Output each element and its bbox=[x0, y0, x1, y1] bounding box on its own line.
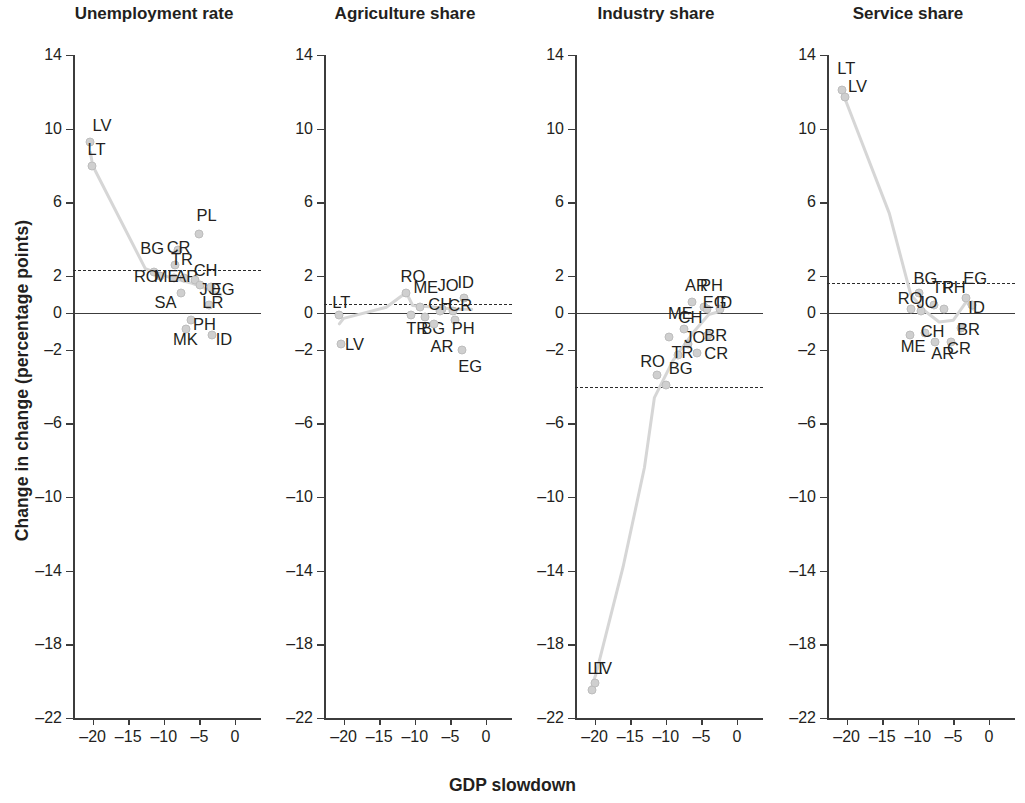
y-tick bbox=[568, 644, 575, 645]
x-tick bbox=[989, 718, 990, 725]
y-tick bbox=[820, 55, 827, 56]
y-tick bbox=[317, 423, 324, 424]
x-tick bbox=[486, 718, 487, 725]
data-point bbox=[652, 371, 661, 380]
x-tick-label: –20 bbox=[833, 728, 860, 746]
x-tick-label: –15 bbox=[115, 728, 142, 746]
y-tick bbox=[317, 497, 324, 498]
y-tick-label: –22 bbox=[35, 709, 62, 727]
data-point-label: JO bbox=[438, 277, 459, 294]
data-point-label: PH bbox=[943, 279, 966, 296]
x-tick bbox=[918, 718, 919, 725]
y-tick bbox=[317, 718, 324, 719]
data-point-label: LT bbox=[837, 60, 855, 77]
x-tick-label: 0 bbox=[985, 728, 994, 746]
x-tick-label: –10 bbox=[401, 728, 428, 746]
y-tick-label: –10 bbox=[537, 488, 564, 506]
panel-industry-share: Industry share1410620–2–6–10–14–18–22–20… bbox=[515, 0, 767, 803]
data-point-label: ID bbox=[968, 299, 985, 316]
y-tick bbox=[820, 423, 827, 424]
y-tick-label: 14 bbox=[798, 46, 816, 64]
y-tick bbox=[568, 497, 575, 498]
plot-area: 1410620–2–6–10–14–18–22–20–15–10–50LTLVB… bbox=[827, 55, 1015, 718]
y-tick-label: 6 bbox=[304, 193, 313, 211]
x-tick bbox=[630, 718, 631, 725]
y-tick-label: 2 bbox=[807, 267, 816, 285]
y-tick-label: –10 bbox=[789, 488, 816, 506]
y-tick bbox=[66, 202, 73, 203]
y-axis-line bbox=[73, 55, 75, 718]
x-tick-label: –10 bbox=[150, 728, 177, 746]
data-point bbox=[87, 161, 96, 170]
y-tick-label: –2 bbox=[44, 341, 62, 359]
data-point bbox=[406, 310, 415, 319]
data-point bbox=[940, 305, 949, 314]
data-point bbox=[664, 332, 673, 341]
y-tick-label: –18 bbox=[537, 635, 564, 653]
data-point-label: CR bbox=[947, 340, 971, 357]
data-point-label: TR bbox=[171, 251, 193, 268]
data-point bbox=[335, 310, 344, 319]
data-point-label: ME bbox=[901, 338, 926, 355]
y-tick-label: 0 bbox=[807, 304, 816, 322]
data-point-label: CH bbox=[679, 309, 703, 326]
y-tick bbox=[317, 571, 324, 572]
y-tick-label: 10 bbox=[295, 120, 313, 138]
y-tick bbox=[568, 571, 575, 572]
panel-title: Unemployment rate bbox=[73, 4, 235, 24]
data-point-label: BG bbox=[140, 240, 164, 257]
x-tick-label: –5 bbox=[441, 728, 459, 746]
y-tick bbox=[66, 644, 73, 645]
x-tick-label: 0 bbox=[482, 728, 491, 746]
data-point-label: BR bbox=[704, 327, 727, 344]
y-tick bbox=[568, 718, 575, 719]
x-tick bbox=[93, 718, 94, 725]
data-point-label: PL bbox=[197, 207, 217, 224]
x-axis-label: GDP slowdown bbox=[0, 775, 1025, 796]
data-point bbox=[590, 679, 599, 688]
data-point-label: TR bbox=[671, 344, 693, 361]
data-point-label: LV bbox=[345, 336, 364, 353]
x-tick-label: 0 bbox=[231, 728, 240, 746]
x-tick-label: –5 bbox=[190, 728, 208, 746]
y-axis-line bbox=[827, 55, 829, 718]
x-tick bbox=[882, 718, 883, 725]
zero-reference-line bbox=[73, 313, 261, 315]
y-tick-label: –14 bbox=[789, 562, 816, 580]
data-point-label: LR bbox=[202, 294, 223, 311]
y-tick-label: –22 bbox=[789, 709, 816, 727]
plot-area: 1410620–2–6–10–14–18–22–20–15–10–50LVLTP… bbox=[73, 55, 261, 718]
y-tick bbox=[568, 202, 575, 203]
x-tick-label: –20 bbox=[79, 728, 106, 746]
data-point-label: CR bbox=[704, 345, 728, 362]
data-point bbox=[207, 330, 216, 339]
data-point bbox=[661, 380, 670, 389]
figure-scatter-panels: Change in change (percentage points) Une… bbox=[0, 0, 1025, 803]
data-point-label: LV bbox=[593, 660, 612, 677]
y-tick bbox=[820, 571, 827, 572]
x-tick-label: –10 bbox=[652, 728, 679, 746]
x-tick-label: –15 bbox=[617, 728, 644, 746]
y-tick-label: 10 bbox=[798, 120, 816, 138]
y-tick bbox=[820, 276, 827, 277]
data-point-label: SA bbox=[155, 294, 177, 311]
x-tick-label: 0 bbox=[733, 728, 742, 746]
y-tick-label: 2 bbox=[304, 267, 313, 285]
trend-line bbox=[324, 55, 512, 718]
data-point-label: RO bbox=[640, 353, 665, 370]
y-tick bbox=[66, 129, 73, 130]
data-point bbox=[336, 340, 345, 349]
y-tick bbox=[820, 313, 827, 314]
x-tick bbox=[666, 718, 667, 725]
panel-unemployment-rate: Unemployment rate1410620–2–6–10–14–18–22… bbox=[13, 0, 265, 803]
data-point-label: JO bbox=[916, 294, 937, 311]
y-tick-label: –18 bbox=[35, 635, 62, 653]
data-point-label: ID bbox=[716, 294, 733, 311]
y-tick bbox=[66, 423, 73, 424]
plot-area: 1410620–2–6–10–14–18–22–20–15–10–50ARPHE… bbox=[575, 55, 763, 718]
data-point-label: CH bbox=[194, 262, 218, 279]
y-tick bbox=[820, 644, 827, 645]
panel-title: Service share bbox=[827, 4, 989, 24]
y-tick-label: 14 bbox=[546, 46, 564, 64]
y-tick bbox=[820, 350, 827, 351]
